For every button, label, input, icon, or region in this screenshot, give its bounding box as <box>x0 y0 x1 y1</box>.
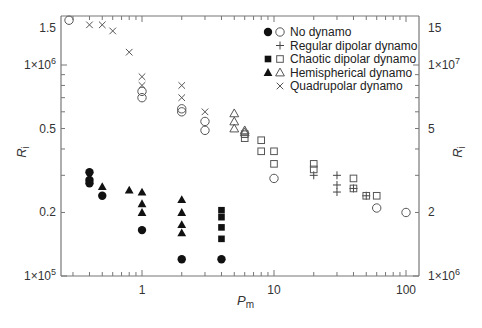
y-axis-title-left: Ri <box>14 146 31 158</box>
data-point-filled-triangle <box>177 229 186 237</box>
data-point-filled-triangle <box>98 182 107 190</box>
legend-label: No dynamo <box>290 25 352 39</box>
data-point-cross <box>139 82 146 89</box>
scatter-chart: 1101001×1050.20.51×1061.51×106251×10715 … <box>0 0 482 328</box>
y-axis-title-left-text: Ri <box>14 146 31 158</box>
open-square-icon <box>277 56 284 63</box>
data-point-filled-square <box>218 214 225 221</box>
y-tick-label-right: 15 <box>428 21 442 35</box>
data-point-cross <box>109 28 116 35</box>
data-point-open-circle <box>201 126 209 134</box>
data-point-filled-circle <box>85 179 93 187</box>
series-open-triangle <box>230 109 249 136</box>
y-tick-label-left: 1.5 <box>39 21 56 35</box>
data-point-open-circle <box>138 93 146 101</box>
data-point-cross <box>139 73 146 80</box>
data-point-open-circle <box>65 16 73 24</box>
data-point-open-square <box>271 148 278 155</box>
data-point-filled-triangle <box>125 186 134 194</box>
data-point-open-circle <box>373 204 381 212</box>
data-point-filled-circle <box>138 226 146 234</box>
data-point-open-triangle <box>230 109 239 117</box>
legend-label: Regular dipolar dynamo <box>290 39 418 53</box>
y-tick-label-right: 1×106 <box>428 267 460 283</box>
data-point-open-square <box>271 161 278 168</box>
x-axis-title: Pm <box>237 293 254 310</box>
legend-item: Regular dipolar dynamo <box>276 39 418 53</box>
y-axis-title-right-text: Ri <box>450 146 467 158</box>
y-tick-label-left: 1×105 <box>24 267 56 283</box>
x-tick-label: 1 <box>139 283 146 297</box>
data-point-filled-circle <box>217 255 225 263</box>
data-point-open-circle <box>270 174 278 182</box>
x-tick-label: 10 <box>267 283 281 297</box>
x-axis-title-main: Pm <box>237 293 254 310</box>
legend-item: No dynamo <box>264 25 352 39</box>
data-point-cross <box>202 109 209 116</box>
data-point-plus <box>333 181 341 189</box>
series-plus <box>310 171 371 199</box>
data-point-filled-triangle <box>177 195 186 203</box>
series-open-square <box>241 131 380 199</box>
legend-label: Quadrupolar dynamo <box>290 79 403 93</box>
y-tick-label-left: 1×106 <box>24 56 56 72</box>
legend-label: Hemispherical dynamo <box>290 66 412 80</box>
y-tick-label-right: 2 <box>428 205 435 219</box>
filled-circle-icon <box>264 28 272 36</box>
data-point-filled-square <box>218 224 225 231</box>
data-point-cross <box>86 22 93 29</box>
data-point-cross <box>99 22 106 29</box>
data-point-open-square <box>350 175 357 182</box>
data-point-filled-circle <box>98 192 106 200</box>
legend-item: Quadrupolar dynamo <box>277 79 403 93</box>
legend-item: Hemispherical dynamo <box>264 66 413 80</box>
data-point-open-square <box>258 148 265 155</box>
filled-triangle-icon <box>264 68 273 76</box>
data-point-open-circle <box>201 117 209 125</box>
data-point-filled-square <box>218 207 225 214</box>
y-axis-ticks <box>61 65 419 276</box>
series-filled-square <box>218 207 225 242</box>
data-point-open-circle <box>402 208 410 216</box>
y-tick-label-right: 5 <box>428 122 435 136</box>
data-point-plus <box>333 171 341 179</box>
y-axis-title-right: Ri <box>450 146 467 158</box>
series-cross <box>86 22 208 116</box>
x-tick-label: 100 <box>396 283 416 297</box>
data-point-filled-triangle <box>177 208 186 216</box>
data-point-plus <box>333 188 341 196</box>
data-point-filled-square <box>218 236 225 243</box>
data-point-filled-triangle <box>138 188 147 196</box>
y-tick-label-right: 1×107 <box>428 56 460 72</box>
data-point-filled-circle <box>85 168 93 176</box>
open-triangle-icon <box>276 68 285 76</box>
data-point-filled-circle <box>178 255 186 263</box>
data-point-open-square <box>373 192 380 199</box>
legend-label: Chaotic dipolar dynamo <box>290 52 416 66</box>
data-point-cross <box>178 94 185 101</box>
data-point-filled-triangle <box>138 199 147 207</box>
y-tick-label-left: 0.5 <box>39 122 56 136</box>
data-point-open-square <box>258 137 265 144</box>
y-tick-label-left: 0.2 <box>39 205 56 219</box>
series-filled-circle <box>85 168 225 263</box>
plus-icon <box>276 42 284 50</box>
legend: No dynamoRegular dipolar dynamoChaotic d… <box>264 25 418 93</box>
data-point-filled-triangle <box>138 208 147 216</box>
data-point-cross <box>126 49 133 56</box>
legend-item: Chaotic dipolar dynamo <box>265 52 417 66</box>
data-point-filled-triangle <box>177 220 186 228</box>
open-circle-icon <box>276 28 284 36</box>
data-point-cross <box>178 82 185 89</box>
cross-icon <box>277 83 284 90</box>
filled-square-icon <box>265 56 272 63</box>
